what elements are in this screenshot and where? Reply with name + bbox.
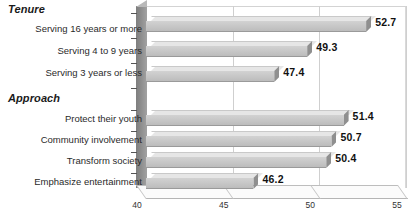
value-label-3: 51.4 [353,110,374,122]
bar-front-face [146,71,274,82]
xtick-label-50: 50 [306,200,315,210]
value-label-6: 46.2 [262,173,283,185]
bar-front-face [146,21,366,32]
bar-0 [146,16,366,27]
bar-top-highlight [151,41,313,42]
bar-1 [146,41,307,52]
axis-tick-6 [131,173,137,174]
value-label-4: 50.7 [340,131,361,143]
bar-front-face [146,157,326,168]
bar-front-face [146,115,344,126]
value-label-5: 50.4 [335,152,356,164]
bar-3 [146,110,344,121]
category-label-1: Serving 4 to 9 years [58,45,143,56]
bar-front-face [146,136,331,147]
group-heading-approach: Approach [8,92,60,104]
category-label-6: Emphasize entertainment [34,176,142,187]
bar-top-highlight [151,152,332,153]
floor-front-edge [146,198,408,199]
axis-tick-0 [131,13,137,14]
bar-6 [146,173,253,184]
gridline-55 [406,6,407,188]
axis-tick-1 [131,38,137,39]
bar-top-highlight [151,16,372,17]
bar-chart: Tenure Approach Serving 16 years or more… [0,0,416,219]
axis-tick-3 [131,110,137,111]
bar-top-highlight [151,173,259,174]
xtick-label-40: 40 [132,200,141,210]
category-label-2: Serving 3 years or less [45,67,142,78]
value-label-2: 47.4 [283,66,304,78]
axis-tick-2 [131,63,137,64]
bar-top-highlight [151,66,280,67]
category-label-5: Transform society [67,155,142,166]
category-label-4: Community involvement [41,134,142,145]
bar-4 [146,131,331,142]
category-label-0: Serving 16 years or more [35,23,142,34]
bar-5 [146,152,326,163]
group-heading-tenure: Tenure [8,3,45,15]
axis-tick-5 [131,152,137,153]
bar-top-highlight [151,131,337,132]
xtick-label-45: 45 [219,200,228,210]
value-label-0: 52.7 [375,16,396,28]
bar-top-highlight [151,110,350,111]
bar-front-face [146,46,307,57]
xtick-label-55: 55 [392,200,401,210]
axis-tick-gap [131,88,137,89]
plot-top-edge [146,6,406,7]
bar-front-face [146,178,253,189]
value-label-1: 49.3 [316,41,337,53]
bar-2 [146,66,274,77]
axis-tick-4 [131,131,137,132]
category-label-3: Protect their youth [65,113,142,124]
